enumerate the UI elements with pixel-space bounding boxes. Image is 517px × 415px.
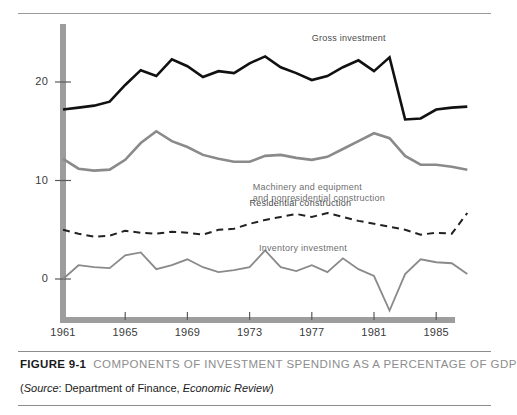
caption-source-line: (Source: Department of Finance, Economic…: [20, 382, 491, 394]
caption-title-line: FIGURE 9-1COMPONENTS OF INVESTMENT SPEND…: [20, 358, 491, 370]
figure-caption: FIGURE 9-1COMPONENTS OF INVESTMENT SPEND…: [20, 358, 491, 394]
series-line: [63, 250, 467, 310]
series-label-gross-investment: Gross investment: [312, 33, 386, 44]
source-label: Source: [24, 382, 59, 394]
x-tick-label: 1985: [413, 326, 459, 338]
source-text: : Department of Finance,: [59, 382, 183, 394]
series-line: [63, 131, 467, 170]
x-tick-label: 1973: [227, 326, 273, 338]
figure-title: COMPONENTS OF INVESTMENT SPENDING AS A P…: [93, 358, 517, 370]
series-label-residential-construction: Residential construction: [250, 198, 352, 209]
series-line: [63, 56, 467, 119]
caption-top-rule: [18, 351, 491, 352]
x-tick-label: 1981: [351, 326, 397, 338]
y-tick-label: 0: [24, 272, 48, 284]
x-tick-label: 1977: [289, 326, 335, 338]
x-tick-label: 1969: [164, 326, 210, 338]
x-tick-label: 1965: [102, 326, 148, 338]
figure-number: FIGURE 9-1: [20, 358, 86, 370]
caption-bottom-rule: [18, 405, 491, 406]
chart-plot-area: 0 10 20 1961 1965 1969 1973 1977 1981 19…: [0, 0, 505, 345]
source-publication: Economic Review: [183, 382, 270, 394]
x-tick-label: 1961: [40, 326, 86, 338]
y-tick-label: 20: [24, 75, 48, 87]
chart-svg: [0, 0, 505, 345]
y-tick-label: 10: [24, 174, 48, 186]
series-label-line-1: Machinery and equipment: [253, 182, 385, 193]
series-line: [63, 213, 467, 237]
source-paren-close: ): [270, 382, 274, 394]
series-label-inventory-investment: Inventory investment: [259, 243, 347, 254]
